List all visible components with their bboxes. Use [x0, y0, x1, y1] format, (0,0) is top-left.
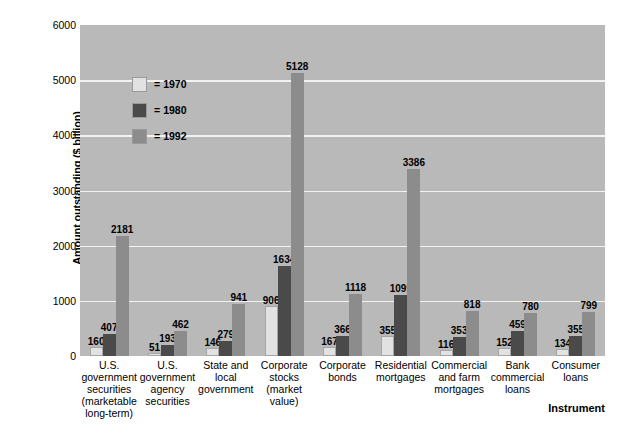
- bar-1992[interactable]: 3386: [407, 169, 420, 356]
- x-axis-label-line: bonds: [313, 371, 371, 383]
- x-axis-category-label: Bankcommercialloans: [488, 359, 546, 395]
- bar-1980[interactable]: 1099: [394, 295, 407, 356]
- x-axis-label-line: Consumer: [547, 359, 605, 371]
- y-axis-tick-labels: 0100020003000400050006000: [32, 25, 76, 356]
- x-axis-category-label: Residentialmortgages: [372, 359, 430, 383]
- bar-1992[interactable]: 1118: [349, 294, 362, 356]
- x-axis-label-line: (market: [255, 383, 313, 395]
- y-axis-tick: 1000: [32, 295, 76, 307]
- bar-value-label: 3386: [403, 157, 425, 168]
- bar-1980[interactable]: 1634: [278, 266, 291, 356]
- bar-group: 1673661118: [323, 25, 362, 356]
- bar-1970[interactable]: 906: [265, 306, 278, 356]
- x-axis-label-line: Bank: [488, 359, 546, 371]
- y-axis-tick: 4000: [32, 129, 76, 141]
- x-axis-label-line: securities: [80, 383, 138, 395]
- bar-group: 134355799: [556, 25, 595, 356]
- bar-group: 1604072181: [90, 25, 129, 356]
- bar-1970[interactable]: 160: [90, 347, 103, 356]
- bar-1970[interactable]: 134: [556, 349, 569, 356]
- x-axis-label-line: Residential: [372, 359, 430, 371]
- bar-1992[interactable]: 780: [524, 313, 537, 356]
- x-axis-label-line: government: [197, 383, 255, 395]
- bar-1970[interactable]: 152: [498, 348, 511, 356]
- bars-layer: 1604072181511934621462799419061634512816…: [80, 25, 605, 356]
- bar-value-label: 462: [172, 319, 189, 330]
- x-axis-label-line: government: [80, 371, 138, 383]
- bar-value-label: 5128: [286, 61, 308, 72]
- bar-1970[interactable]: 116: [440, 350, 453, 356]
- x-axis-label-line: mortgages: [430, 383, 488, 395]
- bar-group: 51193462: [148, 25, 187, 356]
- bar-chart: Amount outstanding ($ billion) 010002000…: [0, 0, 632, 437]
- x-axis-label-line: U.S.: [80, 359, 138, 371]
- x-axis-label-line: (marketable: [80, 395, 138, 407]
- bar-group: 90616345128: [265, 25, 304, 356]
- y-axis-tick: 6000: [32, 19, 76, 31]
- x-axis-label-line: agency: [138, 383, 196, 395]
- bar-1992[interactable]: 2181: [116, 236, 129, 356]
- x-axis-label-line: local: [197, 371, 255, 383]
- bar-value-label: 1118: [345, 282, 366, 293]
- bar-1980[interactable]: 353: [453, 337, 466, 356]
- bar-1992[interactable]: 5128: [291, 73, 304, 356]
- x-axis-category-label: State andlocalgovernment: [197, 359, 255, 395]
- bar-1992[interactable]: 941: [232, 304, 245, 356]
- bar-1980[interactable]: 279: [219, 341, 232, 356]
- x-axis-label-line: commercial: [488, 371, 546, 383]
- bar-group: 35510993386: [381, 25, 420, 356]
- x-axis-label-line: and farm: [430, 371, 488, 383]
- bar-1992[interactable]: 462: [174, 331, 187, 356]
- bar-group: 116353818: [440, 25, 479, 356]
- bar-1980[interactable]: 355: [569, 336, 582, 356]
- bar-value-label: 780: [522, 301, 539, 312]
- bar-1980[interactable]: 193: [161, 345, 174, 356]
- bar-group: 146279941: [206, 25, 245, 356]
- x-axis-label-line: Corporate: [255, 359, 313, 371]
- x-axis-label-line: loans: [547, 371, 605, 383]
- bar-value-label: 2181: [111, 224, 133, 235]
- x-axis-label-line: long-term): [80, 407, 138, 419]
- x-axis-label-line: government: [138, 371, 196, 383]
- bar-value-label: 818: [464, 299, 481, 310]
- x-axis-label-line: Corporate: [313, 359, 371, 371]
- y-axis-tick: 3000: [32, 185, 76, 197]
- x-axis-label-line: stocks: [255, 371, 313, 383]
- x-axis-category-label: Commercialand farmmortgages: [430, 359, 488, 395]
- y-axis-tick: 0: [32, 350, 76, 362]
- x-axis-label-line: mortgages: [372, 371, 430, 383]
- y-axis-tick: 2000: [32, 240, 76, 252]
- x-axis-title: Instrument: [440, 402, 605, 414]
- x-axis-category-label: Corporatebonds: [313, 359, 371, 383]
- bar-1970[interactable]: 167: [323, 347, 336, 356]
- x-axis-category-label: U.S.governmentagencysecurities: [138, 359, 196, 407]
- x-axis-category-label: Consumerloans: [547, 359, 605, 383]
- bar-value-label: 799: [580, 300, 597, 311]
- bar-1992[interactable]: 799: [582, 312, 595, 356]
- x-axis-label-line: Commercial: [430, 359, 488, 371]
- bar-1992[interactable]: 818: [466, 311, 479, 356]
- x-axis-label-line: State and: [197, 359, 255, 371]
- bar-1980[interactable]: 366: [336, 336, 349, 356]
- x-axis-label-line: U.S.: [138, 359, 196, 371]
- x-axis-category-label: Corporatestocks(marketvalue): [255, 359, 313, 407]
- x-axis-label-line: value): [255, 395, 313, 407]
- bar-1970[interactable]: 51: [148, 353, 161, 356]
- plot-area: = 1970 = 1980 = 1992 1604072181511934621…: [80, 25, 605, 356]
- bar-group: 152459780: [498, 25, 537, 356]
- bar-1980[interactable]: 407: [103, 334, 116, 356]
- x-axis-label-line: securities: [138, 395, 196, 407]
- y-axis-tick: 5000: [32, 74, 76, 86]
- bar-1980[interactable]: 459: [511, 331, 524, 356]
- bar-1970[interactable]: 146: [206, 348, 219, 356]
- bar-value-label: 941: [230, 292, 247, 303]
- bar-1970[interactable]: 355: [381, 336, 394, 356]
- x-axis-label-line: loans: [488, 383, 546, 395]
- x-axis-category-label: U.S.governmentsecurities(marketablelong-…: [80, 359, 138, 419]
